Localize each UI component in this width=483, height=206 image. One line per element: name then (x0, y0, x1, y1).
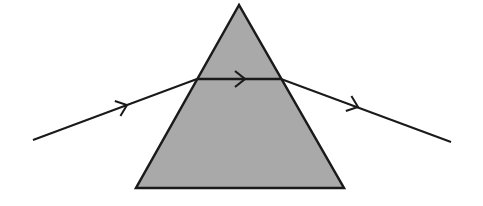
diagram-svg (0, 0, 483, 206)
prism-triangle (136, 5, 344, 188)
prism-diagram (0, 0, 483, 206)
